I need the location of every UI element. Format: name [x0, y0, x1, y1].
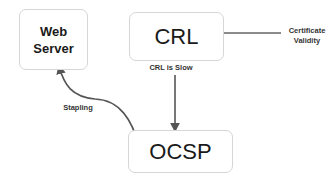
- web-server-node: WebServer: [19, 9, 88, 70]
- crl-node: CRL: [129, 12, 224, 61]
- crl-label: CRL: [154, 24, 198, 50]
- stapling-label: Stapling: [60, 103, 96, 113]
- web-server-label-line1: Web: [33, 23, 73, 40]
- crl-is-slow-label: CRL is Slow: [146, 63, 196, 73]
- web-server-label-line2: Server: [33, 40, 73, 57]
- certificate-validity-line2: Validity: [282, 36, 332, 46]
- certificate-validity-label: Certificate Validity: [282, 26, 332, 46]
- ocsp-node: OCSP: [128, 130, 233, 173]
- ocsp-label: OCSP: [149, 139, 211, 165]
- certificate-validity-line1: Certificate: [282, 26, 332, 36]
